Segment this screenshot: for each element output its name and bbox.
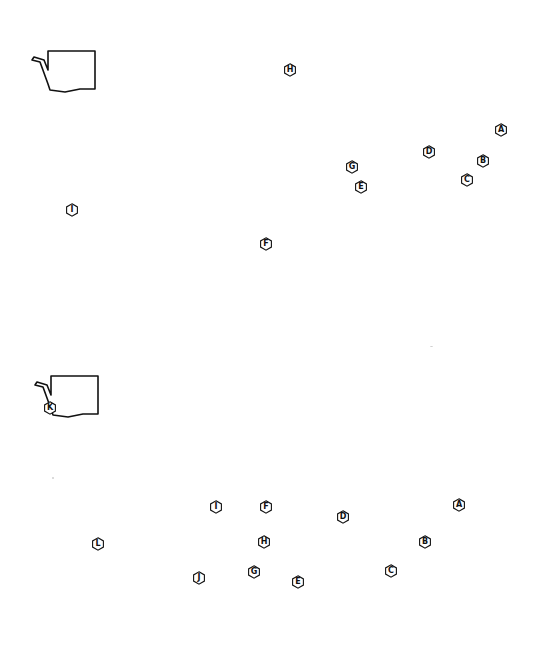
location-marker-d: D (336, 510, 350, 524)
location-marker-i: I (209, 500, 223, 514)
marker-label: L (91, 537, 105, 551)
marker-label: J (192, 571, 206, 585)
usa-map-bottom (0, 0, 548, 654)
marker-label: K (43, 401, 57, 415)
location-marker-a: A (452, 498, 466, 512)
location-marker-b: B (418, 535, 432, 549)
marker-label: C (384, 564, 398, 578)
location-marker-f: F (259, 500, 273, 514)
marker-label: I (209, 500, 223, 514)
scan-speck (52, 477, 54, 479)
location-marker-c: C (384, 564, 398, 578)
marker-label: G (247, 565, 261, 579)
location-marker-l: L (91, 537, 105, 551)
marker-label: A (452, 498, 466, 512)
location-marker-k: K (43, 401, 57, 415)
marker-label: H (257, 535, 271, 549)
bottom-map: ABCDEFGHIJKL (0, 0, 548, 654)
location-marker-g: G (247, 565, 261, 579)
location-marker-j: J (192, 571, 206, 585)
location-marker-h: H (257, 535, 271, 549)
marker-label: D (336, 510, 350, 524)
scan-speck (430, 346, 433, 347)
location-marker-e: E (291, 575, 305, 589)
marker-label: B (418, 535, 432, 549)
marker-label: F (259, 500, 273, 514)
marker-label: E (291, 575, 305, 589)
